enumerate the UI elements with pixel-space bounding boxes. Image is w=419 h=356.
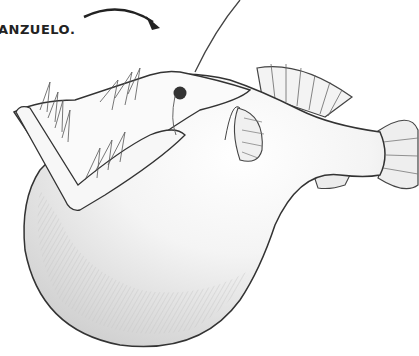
arrow-icon bbox=[84, 10, 160, 30]
anglerfish-illustration bbox=[0, 0, 419, 356]
eye bbox=[174, 87, 187, 100]
lure-line bbox=[195, 0, 240, 72]
